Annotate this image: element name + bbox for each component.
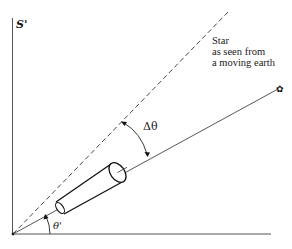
delta-theta-label: Δθ: [143, 120, 158, 133]
frame-label: S': [16, 18, 27, 31]
star-caption-line-2: as seen from: [212, 46, 275, 57]
telescope-icon: [54, 159, 130, 214]
theta-prime-arc: [44, 214, 51, 234]
theta-prime-label: θ': [53, 220, 62, 231]
apparent-direction-line: [13, 89, 278, 234]
origin-point: [12, 233, 15, 236]
dashed-direction-line: [13, 12, 228, 234]
star-caption: Star as seen from a moving earth: [212, 35, 275, 68]
star-caption-line-1: Star: [212, 35, 275, 46]
star-caption-line-3: a moving earth: [212, 57, 275, 68]
star-icon: ✿: [276, 84, 284, 94]
